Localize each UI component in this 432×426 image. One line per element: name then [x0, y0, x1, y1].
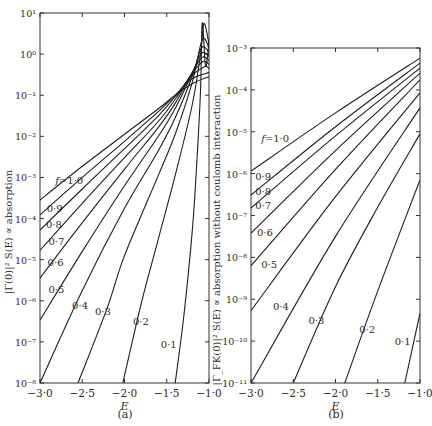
y-tick-label: 10⁻² — [15, 131, 36, 142]
y-axis-label: |Γ(0)|² S(E) ∝ absorption — [3, 169, 15, 294]
x-tick-label: −2·0 — [323, 387, 349, 399]
y-axis-label: |Γ_FK(0)|² S(E) ∝ absorption without cou… — [211, 94, 223, 385]
series-curve — [78, 38, 209, 383]
series-label: 0·7 — [48, 236, 64, 247]
series-label: 0·6 — [257, 227, 273, 238]
y-tick-label: 10¹ — [20, 8, 36, 19]
series-label: 0·4 — [273, 301, 289, 312]
figure: −3·0−2·5−2·0−1·5−1·010⁻⁸10⁻⁷10⁻⁶10⁻⁵10⁻⁴… — [0, 0, 432, 426]
series-curve — [251, 80, 420, 266]
y-tick-label: 10⁻⁸ — [15, 378, 36, 389]
y-tick-label: 10⁻⁷ — [15, 337, 36, 348]
series-curve — [40, 47, 209, 383]
y-tick-label: 10⁻¹⁰ — [222, 336, 247, 347]
y-tick-label: 10⁻⁴ — [226, 85, 247, 96]
series-label: 0·8 — [255, 186, 271, 197]
y-tick-label: 10⁻⁷ — [226, 211, 247, 222]
panel-b-chart: −3·0−2·5−2·0−1·5−1·010⁻¹¹10⁻¹⁰10⁻⁹10⁻⁸10… — [211, 43, 432, 413]
y-tick-label: 10⁻⁵ — [15, 255, 36, 266]
caption-a: (a) — [117, 408, 132, 421]
y-tick-label: 10⁻⁹ — [226, 294, 247, 305]
series-label: 0·7 — [255, 200, 271, 211]
series-curve — [405, 313, 420, 383]
caption-b: (b) — [328, 408, 344, 421]
x-tick-label: −1·5 — [365, 387, 391, 399]
series-curve — [251, 93, 420, 311]
series-curve — [40, 52, 209, 320]
series-label: 0·9 — [255, 171, 271, 182]
series-curve — [251, 58, 420, 171]
x-tick-label: −1·0 — [407, 387, 432, 399]
x-tick-label: −1·5 — [154, 387, 180, 399]
x-tick-label: −1·0 — [196, 387, 222, 399]
y-tick-label: 10⁰ — [20, 49, 36, 60]
series-label: 0·2 — [359, 324, 375, 335]
y-tick-label: 10⁻⁶ — [226, 169, 247, 180]
series-label: 0·5 — [261, 259, 277, 270]
series-label: 0·6 — [48, 257, 64, 268]
series-label: 0·2 — [133, 316, 149, 327]
y-tick-label: 10⁻⁴ — [15, 214, 36, 225]
series-label: 0·3 — [95, 306, 111, 317]
series-label: f=1·0 — [260, 133, 289, 144]
x-tick-label: −2·5 — [70, 387, 96, 399]
series-curve — [251, 63, 420, 195]
y-tick-label: 10⁻¹¹ — [222, 378, 247, 389]
y-tick-label: 10⁻⁶ — [15, 296, 36, 307]
series-curve — [40, 57, 209, 278]
series-label: 0·3 — [308, 315, 324, 326]
series-label: 0·1 — [161, 339, 177, 350]
x-tick-label: −2·5 — [281, 387, 307, 399]
y-tick-label: 10⁻³ — [226, 43, 247, 54]
y-tick-label: 10⁻⁵ — [226, 127, 247, 138]
series-label: 0·1 — [395, 336, 411, 347]
y-tick-label: 10⁻⁸ — [226, 252, 247, 263]
series-label: 0·9 — [47, 203, 63, 214]
y-tick-label: 10⁻³ — [15, 172, 36, 183]
y-tick-label: 10⁻¹ — [15, 90, 36, 101]
x-tick-label: −2·0 — [112, 387, 138, 399]
series-curve — [345, 180, 420, 383]
series-label: 0·5 — [48, 284, 64, 295]
plot-frame — [251, 48, 420, 383]
panel-a-chart: −3·0−2·5−2·0−1·5−1·010⁻⁸10⁻⁷10⁻⁶10⁻⁵10⁻⁴… — [3, 8, 222, 413]
series-label: 0·4 — [72, 300, 88, 311]
